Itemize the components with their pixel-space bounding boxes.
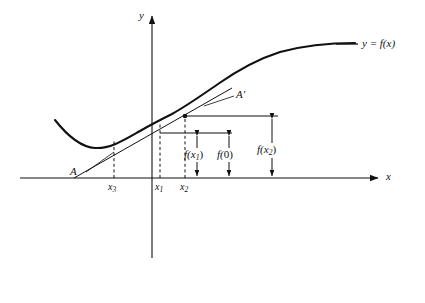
point-label-a: A — [70, 166, 77, 177]
value-label-f-0: f(0) — [217, 149, 233, 160]
x-tick-label-x2: x2 — [180, 182, 188, 194]
value-suffix-f-x1: ) — [199, 148, 203, 160]
y-axis-label: y — [139, 10, 144, 21]
curve-equation-label: y = f(x) — [362, 38, 395, 49]
value-prefix-f-0: f( — [217, 148, 224, 160]
x-tick-sub-x1: 1 — [159, 185, 163, 194]
label-a-leader — [86, 152, 114, 172]
value-suffix-f-x2: ) — [272, 143, 276, 155]
value-label-f-x2: f(x2) — [257, 144, 276, 157]
x-axis-label: x — [386, 171, 391, 182]
x-tick-label-x1: x1 — [155, 182, 163, 194]
x-tick-label-x3: x3 — [108, 182, 116, 194]
value-label-f-x1: f(x1) — [184, 149, 203, 162]
value-prefix-f-x2: f( — [257, 143, 264, 155]
x-tick-sub-x2: 2 — [184, 185, 188, 194]
point-label-a-prime: A′ — [236, 89, 245, 100]
value-suffix-f-0: ) — [229, 148, 233, 160]
calculus-derivative-figure: y x y = f(x) A A′ x3 x1 x2 f(x1) f(0) f(… — [0, 0, 425, 303]
x-tick-sub-x3: 3 — [112, 185, 116, 194]
function-curve — [55, 43, 355, 148]
value-prefix-f-x1: f( — [184, 148, 191, 160]
